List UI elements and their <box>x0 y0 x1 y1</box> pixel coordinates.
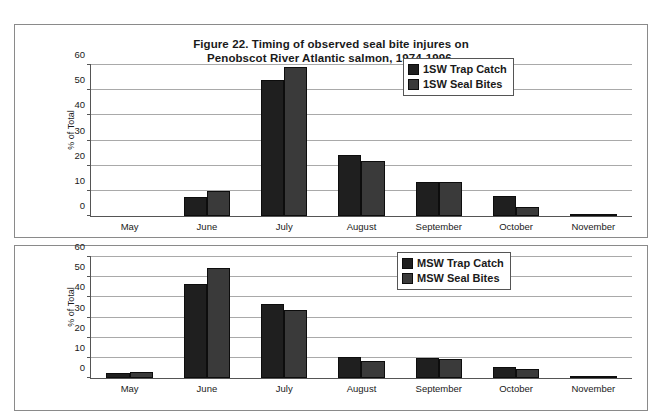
bar <box>284 310 307 378</box>
legend-label: 1SW Trap Catch <box>423 62 507 77</box>
bottom-chart-panel: % of Total 0102030405060 MayJuneJulyAugu… <box>14 245 648 411</box>
x-axis-tick-label: July <box>276 221 293 232</box>
figure-title: Figure 22. Timing of observed seal bite … <box>15 38 647 65</box>
bar-pair <box>323 257 400 378</box>
x-axis-tick-label: September <box>416 383 462 394</box>
y-axis-tick-label: 20 <box>74 321 85 332</box>
x-axis-tick-label: October <box>499 383 533 394</box>
bar <box>338 357 361 378</box>
legend-item: 1SW Seal Bites <box>408 77 507 92</box>
y-axis-tick-label: 60 <box>74 49 85 60</box>
x-axis-tick-label: May <box>121 221 139 232</box>
top-legend: 1SW Trap Catch 1SW Seal Bites <box>403 58 514 96</box>
bar <box>593 376 616 378</box>
x-axis-tick-label: November <box>571 221 615 232</box>
legend-item: MSW Trap Catch <box>402 256 504 271</box>
bar <box>570 214 593 216</box>
bar <box>516 207 539 216</box>
y-axis-tick-label: 30 <box>74 124 85 135</box>
legend-item: 1SW Trap Catch <box>408 62 507 77</box>
bar-pair <box>246 65 323 216</box>
y-axis-tick-label: 0 <box>80 362 85 373</box>
y-axis-tick-label: 40 <box>74 99 85 110</box>
bar-pair <box>555 257 632 378</box>
x-axis-tick-label: November <box>571 383 615 394</box>
legend-swatch-icon <box>408 79 419 90</box>
legend-swatch-icon <box>402 258 413 269</box>
bar <box>284 67 307 216</box>
x-axis-tick-label: June <box>197 383 218 394</box>
bar <box>106 373 129 378</box>
x-axis-tick-label: August <box>347 383 377 394</box>
bar-pair <box>246 257 323 378</box>
legend-label: 1SW Seal Bites <box>423 77 502 92</box>
bar <box>416 182 439 216</box>
y-axis-tick-label: 10 <box>74 174 85 185</box>
bar-pair <box>555 65 632 216</box>
bar <box>570 376 593 378</box>
top-chart-panel: Figure 22. Timing of observed seal bite … <box>14 24 648 238</box>
y-axis-tick-label: 20 <box>74 149 85 160</box>
legend-item: MSW Seal Bites <box>402 271 504 286</box>
x-axis-tick-label: May <box>121 383 139 394</box>
y-axis-tick-label: 60 <box>74 241 85 252</box>
bar <box>261 80 284 216</box>
bar-pair <box>168 65 245 216</box>
bar <box>338 155 361 216</box>
bar-pair <box>168 257 245 378</box>
bar <box>493 196 516 216</box>
figure-title-line2: Penobscot River Atlantic salmon, 1974-19… <box>15 52 647 66</box>
bottom-plot-area: % of Total 0102030405060 MayJuneJulyAugu… <box>90 257 632 379</box>
bar <box>130 372 153 378</box>
legend-label: MSW Trap Catch <box>417 256 504 271</box>
bar <box>439 359 462 378</box>
y-axis-tick-label: 30 <box>74 301 85 312</box>
y-axis-tick-label: 50 <box>74 261 85 272</box>
y-axis-tick-label: 50 <box>74 74 85 85</box>
bar <box>516 369 539 378</box>
legend-swatch-icon <box>408 64 419 75</box>
bar <box>184 197 207 216</box>
bar <box>207 191 230 216</box>
figure-title-line1: Figure 22. Timing of observed seal bite … <box>193 38 469 50</box>
x-axis-tick-label: July <box>276 383 293 394</box>
bar <box>439 182 462 216</box>
x-axis-tick-label: June <box>197 221 218 232</box>
y-axis-tick-label: 10 <box>74 341 85 352</box>
bar-pair <box>91 257 168 378</box>
legend-label: MSW Seal Bites <box>417 271 500 286</box>
y-axis-tick-label: 0 <box>80 200 85 211</box>
bar <box>361 161 384 216</box>
bar-pair <box>91 65 168 216</box>
bar-pair <box>323 65 400 216</box>
bottom-legend: MSW Trap Catch MSW Seal Bites <box>397 252 511 290</box>
bar <box>416 358 439 378</box>
figure-page: Figure 22. Timing of observed seal bite … <box>0 0 656 419</box>
top-plot-area: % of Total 0102030405060 MayJuneJulyAugu… <box>90 65 632 217</box>
x-axis-tick-label: August <box>347 221 377 232</box>
bar <box>361 361 384 378</box>
bar <box>261 304 284 378</box>
x-axis-tick-label: October <box>499 221 533 232</box>
y-axis-tick-label: 40 <box>74 281 85 292</box>
legend-swatch-icon <box>402 273 413 284</box>
bar <box>184 284 207 378</box>
bar <box>593 214 616 216</box>
bar <box>207 268 230 378</box>
bar <box>493 367 516 378</box>
x-axis-tick-label: September <box>416 221 462 232</box>
